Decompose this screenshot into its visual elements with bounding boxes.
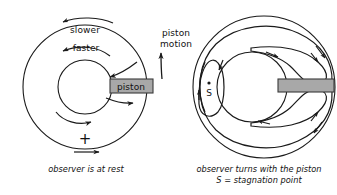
left-caption: observer is at rest: [48, 164, 124, 174]
figure-container: slower faster piston piston motion + obs…: [0, 0, 337, 195]
piston-motion-label-line2: motion: [160, 39, 192, 49]
left-faster-label: faster: [73, 43, 100, 53]
right-caption-line1: observer turns with the piston: [196, 164, 321, 174]
right-caption-line2: S = stagnation point: [216, 175, 302, 185]
stagnation-point-label: S: [206, 88, 212, 98]
stagnation-point-dot: [207, 81, 210, 84]
right-piston-block: [278, 79, 334, 92]
left-slower-label: slower: [70, 25, 100, 35]
piston-motion-label-line1: piston: [162, 28, 190, 38]
left-plus-sign: +: [79, 130, 92, 148]
left-piston-label: piston: [117, 82, 145, 92]
diagram-svg: slower faster piston piston motion + obs…: [0, 0, 337, 195]
